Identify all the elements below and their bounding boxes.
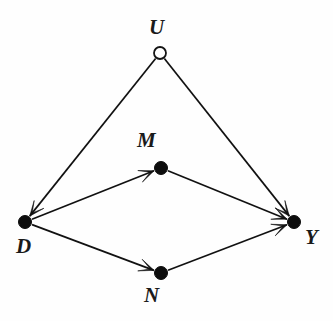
node-y[interactable] bbox=[288, 216, 301, 229]
edge-n-y bbox=[168, 225, 287, 271]
node-m[interactable] bbox=[155, 162, 168, 175]
causal-graph bbox=[0, 0, 333, 321]
causal-diagram-canvas: UMDNY bbox=[0, 0, 333, 321]
edge-d-m bbox=[32, 171, 154, 219]
node-label-y: Y bbox=[305, 227, 318, 248]
node-layer bbox=[19, 47, 301, 280]
edge-d-n bbox=[32, 225, 154, 271]
node-n[interactable] bbox=[155, 267, 168, 280]
node-u[interactable] bbox=[154, 47, 166, 59]
edge-m-y bbox=[168, 171, 287, 219]
node-label-u: U bbox=[149, 17, 164, 38]
node-label-d: D bbox=[16, 236, 31, 257]
node-label-m: M bbox=[137, 130, 156, 151]
node-d[interactable] bbox=[19, 216, 32, 229]
edge-u-y bbox=[164, 58, 289, 216]
node-label-n: N bbox=[144, 285, 159, 306]
